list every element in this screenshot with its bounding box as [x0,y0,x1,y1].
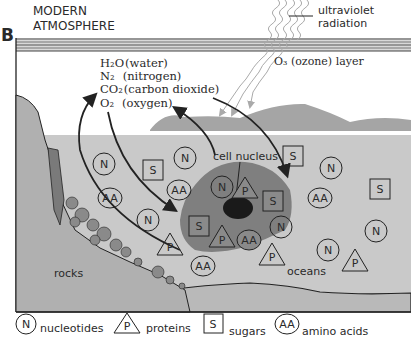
svg-text:N: N [327,162,335,175]
rocks-label: rocks [54,267,83,280]
legend: N nucleotides P proteins S sugars AA ami… [16,313,369,338]
gas-name: (carbon dioxide) [124,82,219,96]
svg-text:N: N [372,225,380,238]
svg-text:AA: AA [102,192,118,205]
ozone-layer-band [16,38,411,51]
legend-item-sugars: S sugars [204,314,266,338]
svg-text:AA: AA [171,184,187,197]
cell-nucleus-label: cell nucleus [213,150,278,163]
svg-text:AA: AA [195,260,211,273]
atmosphere-gases-list: H₂O(water) N₂(nitrogen) CO₂(carbon dioxi… [100,56,219,110]
svg-text:P: P [242,185,249,198]
svg-text:P: P [219,234,226,247]
svg-text:AA: AA [241,234,257,247]
svg-text:AA: AA [279,318,295,331]
svg-text:N: N [324,244,332,257]
gas-name: (nitrogen) [123,69,182,83]
legend-item-proteins: P proteins [114,313,191,335]
gas-formula: N₂ [100,69,115,83]
svg-text:N₂(nitrogen): N₂(nitrogen) [100,69,181,83]
svg-text:N: N [22,318,30,331]
ozone-label: O₃ (ozone) layer [274,55,364,68]
svg-text:S: S [270,195,277,208]
svg-text:CO₂(carbon dioxide): CO₂(carbon dioxide) [100,82,219,96]
gas-name: (oxygen) [122,96,172,110]
svg-text:N: N [218,181,226,194]
amino-acid: AA [237,230,261,250]
svg-text:AA: AA [312,192,328,205]
cell-nucleus [223,197,253,219]
svg-text:N: N [277,221,285,234]
svg-text:sugars: sugars [229,325,266,338]
svg-text:S: S [196,220,203,233]
svg-text:amino acids: amino acids [302,325,369,338]
svg-text:S: S [150,164,157,177]
gas-formula: O₂ [100,96,114,110]
uv-label-line2: radiation [318,17,367,30]
title-line2: ATMOSPHERE [33,19,115,33]
svg-text:S: S [210,318,217,331]
svg-text:N: N [100,158,108,171]
gas-formula: H₂O [100,56,124,70]
svg-text:P: P [167,241,174,254]
legend-item-amino-acids: AA amino acids [275,314,369,338]
svg-text:P: P [269,251,276,264]
svg-text:S: S [377,183,384,196]
uv-label-line1: ultraviolet [318,4,375,17]
title-line1: MODERN [33,4,87,18]
sugar: S [263,191,283,211]
sugar: S [189,216,209,236]
svg-text:N: N [144,214,152,227]
svg-text:P: P [124,320,131,333]
svg-text:N: N [181,152,189,165]
svg-text:nucleotides: nucleotides [40,322,104,335]
svg-text:O₂(oxygen): O₂(oxygen) [100,96,173,110]
svg-text:P: P [352,257,359,270]
panel-label: B [1,25,14,45]
oceans-label: oceans [287,265,326,278]
svg-text:proteins: proteins [146,322,191,335]
origin-of-life-diagram: B MODERN ATMOSPHERE ultraviolet radiatio… [0,0,411,341]
svg-text:H₂O(water): H₂O(water) [100,56,168,70]
gas-formula: CO₂ [100,82,123,96]
gas-name: (water) [125,56,168,70]
legend-item-nucleotides: N nucleotides [16,314,104,335]
svg-text:S: S [290,150,297,163]
